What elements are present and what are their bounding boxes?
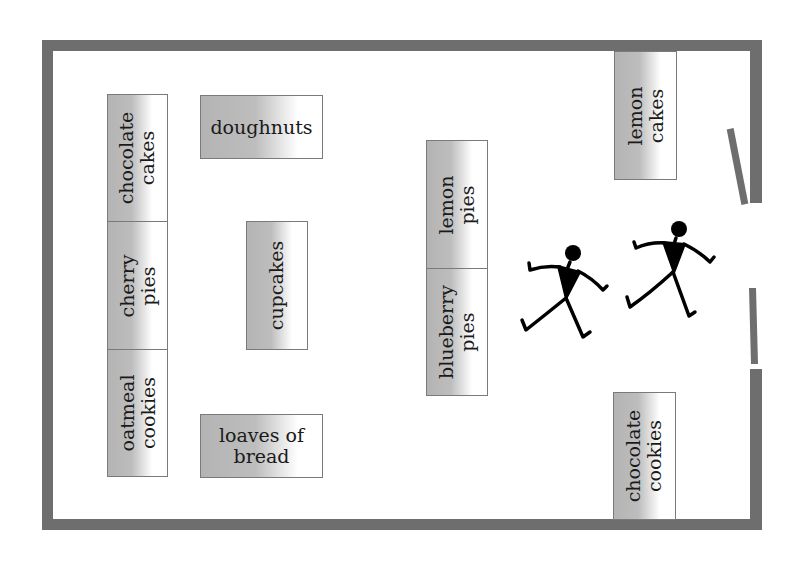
walking-person-icon — [627, 221, 714, 316]
walking-figures — [0, 0, 802, 562]
walking-person-icon — [522, 245, 607, 337]
